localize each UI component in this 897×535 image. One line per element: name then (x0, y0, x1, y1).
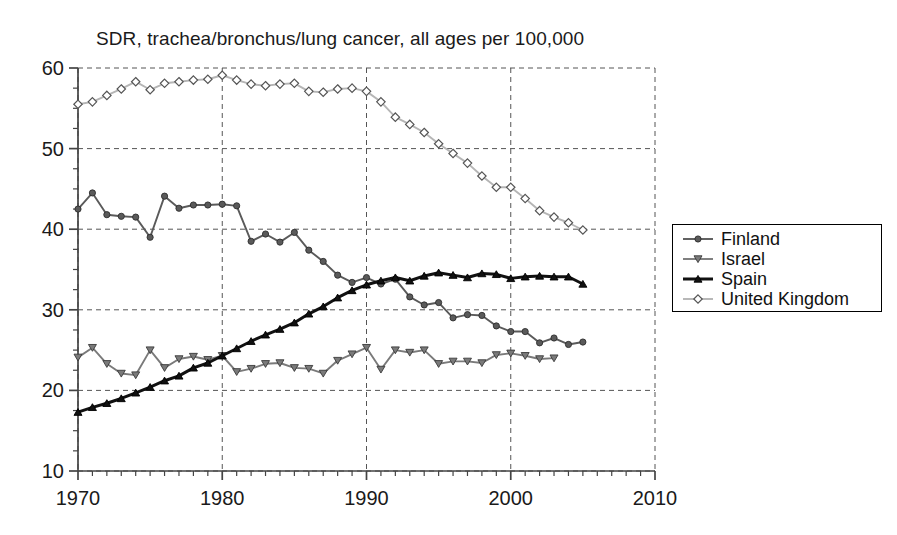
data-point-marker (103, 91, 111, 99)
data-point-marker (305, 87, 313, 95)
data-point-marker (291, 229, 297, 235)
legend-label: United Kingdom (721, 289, 849, 309)
x-axis-tick-label: 2000 (489, 487, 534, 509)
series-spain (74, 269, 587, 415)
data-point-marker (306, 247, 312, 253)
data-point-marker (450, 315, 456, 321)
data-point-marker (234, 203, 240, 209)
legend-label: Spain (721, 269, 767, 289)
data-point-marker (550, 213, 558, 221)
series-finland (75, 190, 586, 348)
data-point-marker (348, 84, 356, 92)
data-point-marker (277, 239, 283, 245)
data-point-marker (580, 339, 586, 345)
data-point-marker (537, 340, 543, 346)
chart-legend: FinlandIsraelSpainUnited Kingdom (672, 224, 882, 312)
data-point-marker (320, 258, 326, 264)
data-point-marker (74, 354, 82, 361)
data-point-marker (436, 299, 442, 305)
legend-item-israel[interactable]: Israel (673, 249, 881, 269)
data-point-marker (694, 295, 702, 303)
data-point-marker (464, 312, 470, 318)
data-point-marker (333, 85, 341, 93)
series-line (78, 193, 583, 345)
y-axis-tick-label: 30 (42, 299, 64, 321)
data-point-marker (261, 82, 269, 90)
data-point-marker (118, 213, 124, 219)
x-axis-tick-label: 1970 (56, 487, 101, 509)
data-point-marker (522, 328, 528, 334)
data-point-marker (406, 120, 414, 128)
data-point-marker (218, 71, 226, 79)
legend-item-united-kingdom[interactable]: United Kingdom (673, 289, 881, 309)
y-axis-tick-label: 40 (42, 218, 64, 240)
data-point-marker (232, 76, 240, 84)
data-point-marker (335, 272, 341, 278)
data-point-marker (146, 86, 154, 94)
data-point-marker (104, 212, 110, 218)
data-point-marker (248, 238, 254, 244)
data-point-marker (319, 88, 327, 96)
y-axis-tick-label: 10 (42, 460, 64, 482)
x-axis-tick-label: 2010 (633, 487, 678, 509)
data-point-marker (363, 274, 369, 280)
data-point-marker (190, 202, 196, 208)
data-point-marker (695, 236, 701, 242)
data-point-marker (421, 302, 427, 308)
data-point-marker (176, 205, 182, 211)
data-point-marker (290, 79, 298, 87)
triangle-up-icon (681, 271, 715, 287)
data-point-marker (74, 100, 82, 108)
data-point-marker (565, 341, 571, 347)
series-israel (74, 344, 558, 378)
circle-icon (681, 231, 715, 247)
data-point-marker (493, 323, 499, 329)
data-point-marker (219, 201, 225, 207)
data-point-marker (160, 79, 168, 87)
data-point-marker (247, 80, 255, 88)
legend-item-finland[interactable]: Finland (673, 229, 881, 249)
data-point-marker (205, 202, 211, 208)
data-point-marker (407, 294, 413, 300)
x-axis-tick-label: 1980 (200, 487, 245, 509)
chart-figure: SDR, trachea/bronchus/lung cancer, all a… (0, 0, 897, 535)
series-line (78, 75, 583, 230)
data-point-marker (319, 370, 327, 377)
triangle-down-icon (681, 251, 715, 267)
y-axis-tick-label: 60 (42, 57, 64, 79)
data-point-marker (189, 76, 197, 84)
data-point-marker (204, 75, 212, 83)
legend-item-spain[interactable]: Spain (673, 269, 881, 289)
data-point-marker (161, 365, 169, 372)
data-point-marker (349, 279, 355, 285)
data-point-marker (377, 366, 385, 373)
data-point-marker (579, 226, 587, 234)
data-point-marker (147, 234, 153, 240)
data-point-marker (89, 190, 95, 196)
data-point-marker (132, 78, 140, 86)
data-point-marker (479, 312, 485, 318)
diamond-open-icon (681, 291, 715, 307)
legend-label: Finland (721, 229, 780, 249)
data-point-marker (175, 78, 183, 86)
data-point-marker (117, 85, 125, 93)
y-axis-tick-label: 50 (42, 138, 64, 160)
data-point-marker (564, 219, 572, 227)
x-axis-tick-label: 1990 (344, 487, 389, 509)
data-point-marker (133, 214, 139, 220)
y-axis-tick-label: 20 (42, 379, 64, 401)
data-point-marker (161, 193, 167, 199)
data-point-marker (348, 351, 356, 358)
data-point-marker (262, 231, 268, 237)
series-line (78, 273, 583, 412)
data-point-marker (88, 98, 96, 106)
data-point-marker (276, 80, 284, 88)
series-united-kingdom (74, 71, 587, 234)
data-point-marker (508, 328, 514, 334)
data-point-marker (75, 206, 81, 212)
legend-label: Israel (721, 249, 765, 269)
data-point-marker (551, 335, 557, 341)
